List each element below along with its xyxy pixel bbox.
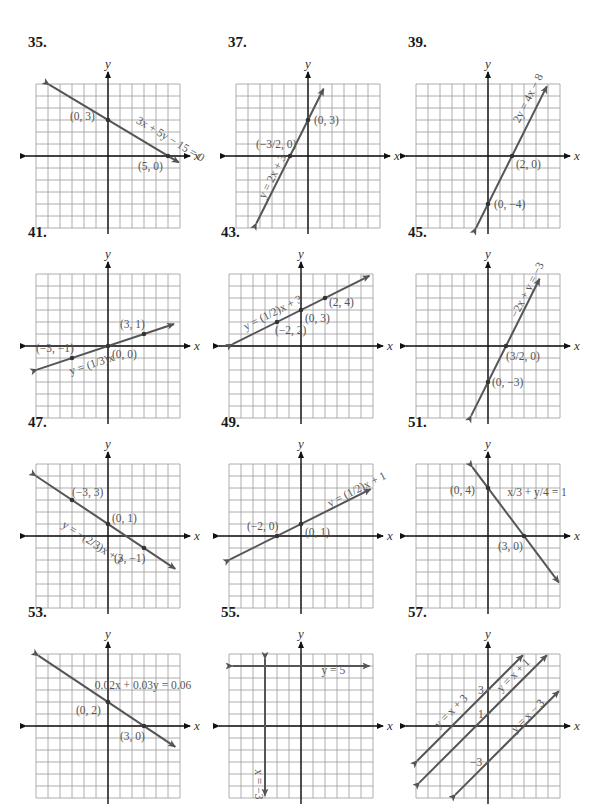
- equation-label: x/3 + y/4 = 1: [507, 486, 567, 499]
- coordinate-plane: xyy = (1/2)x + 3(2, 4)(0, 3)(−2, 2): [215, 250, 389, 434]
- point-label: (3, 1): [120, 318, 145, 331]
- point-label: (3, 0): [120, 730, 145, 743]
- point-label: (3, 0): [498, 540, 523, 553]
- y-axis-label: y: [103, 436, 111, 451]
- plotted-point: [106, 700, 111, 705]
- plotted-point: [486, 486, 491, 491]
- coordinate-plane: xyy = 2x + 3(0, 3)(−3/2, 0): [222, 60, 396, 244]
- x-axis-label: x: [193, 338, 200, 353]
- equation-label: y = (1/2)x + 1: [325, 469, 388, 510]
- plotted-point: [504, 344, 509, 349]
- point-label: (3/2, 0): [506, 350, 540, 363]
- y-axis-label: y: [296, 626, 304, 641]
- problem-number: 55.: [221, 604, 240, 621]
- plotted-point: [142, 724, 147, 729]
- point-label: (0, 1): [112, 512, 137, 525]
- y-axis-label: y: [483, 56, 491, 71]
- point-label: (0, −4): [494, 198, 526, 211]
- point-label: (−2, 2): [275, 324, 307, 337]
- x-axis-label: x: [573, 148, 580, 163]
- y-axis-label: y: [483, 246, 491, 261]
- coordinate-plane: xy2y = 4x − 8(2, 0)(0, −4): [402, 60, 576, 244]
- graph-line: [417, 655, 523, 761]
- problem-number: 51.: [408, 414, 427, 431]
- graph-panel-43: 43.xyy = (1/2)x + 3(2, 4)(0, 3)(−2, 2): [229, 224, 419, 409]
- graph-panel-49: 49.xyy = (1/2)x + 1(−2, 0)(0, 1): [229, 414, 419, 599]
- intercept-label: −3: [470, 756, 482, 768]
- x-axis-label: x: [193, 528, 200, 543]
- point-label: (5, 0): [138, 160, 163, 173]
- problem-number: 47.: [28, 414, 47, 431]
- point-label: (0, 1): [305, 526, 330, 539]
- plotted-point: [70, 498, 75, 503]
- graph-panel-55: 55.xyy = 5x = −3: [229, 604, 419, 789]
- graph-panel-57: 57.xyy = x + 3y = x + 1y = x − 331−3: [416, 604, 606, 789]
- coordinate-plane: xyx/3 + y/4 = 1(0, 4)(3, 0): [402, 440, 576, 624]
- point-label: (2, 4): [329, 296, 354, 309]
- y-axis-label: y: [103, 246, 111, 261]
- point-label: (0, 3): [70, 110, 95, 123]
- graph-panel-41: 41.xyy = (1/3)x(3, 1)(−3, −1)(0, 0): [36, 224, 226, 409]
- plotted-point: [166, 154, 171, 159]
- intercept-label: 3: [478, 684, 484, 696]
- coordinate-plane: xyy = (1/2)x + 1(−2, 0)(0, 1): [215, 440, 389, 624]
- equation-label: y = 5: [321, 664, 345, 677]
- plotted-point: [299, 522, 304, 527]
- problem-number: 45.: [408, 224, 427, 241]
- equation-label: y = x + 3: [432, 692, 471, 731]
- y-axis-label: y: [296, 436, 304, 451]
- plotted-point: [323, 296, 328, 301]
- x-axis-label: x: [393, 148, 400, 163]
- plotted-point: [522, 534, 527, 539]
- plotted-point: [106, 522, 111, 527]
- equation-label: 0.02x + 0.03y = 0.06: [95, 679, 192, 692]
- problem-number: 41.: [28, 224, 47, 241]
- plotted-point: [142, 546, 147, 551]
- plotted-point: [70, 356, 75, 361]
- coordinate-plane: xy3x + 5y − 15 = 0(0, 3)(5, 0): [22, 60, 196, 244]
- point-label: (3, −1): [114, 552, 146, 565]
- plotted-point: [106, 344, 111, 349]
- y-axis-label: y: [483, 626, 491, 641]
- point-label: (0, 3): [314, 114, 339, 127]
- plotted-point: [275, 534, 280, 539]
- x-axis-label: x: [386, 528, 393, 543]
- plotted-point: [306, 118, 311, 123]
- point-label: (−3/2, 0): [256, 138, 297, 151]
- point-label: (2, 0): [516, 158, 541, 171]
- problem-number: 37.: [228, 34, 247, 51]
- intercept-label: 1: [478, 708, 484, 720]
- problem-number: 43.: [221, 224, 240, 241]
- equation-label: x = −3: [253, 769, 265, 799]
- point-label: (0, 2): [76, 704, 101, 717]
- point-label: (−3, 3): [72, 486, 104, 499]
- coordinate-plane: xyy = 5x = −3: [215, 630, 389, 808]
- equation-label: −2x + y = −3: [508, 260, 547, 320]
- graph-panel-47: 47.xyy = −(2/3)x + 1(−3, 3)(0, 1)(3, −1): [36, 414, 226, 599]
- graph-line: [472, 467, 558, 582]
- x-axis-label: x: [573, 718, 580, 733]
- x-axis-label: x: [386, 338, 393, 353]
- point-label: (0, 0): [112, 348, 137, 361]
- plotted-point: [486, 202, 491, 207]
- problem-number: 49.: [221, 414, 240, 431]
- y-axis-label: y: [303, 56, 311, 71]
- point-label: (−2, 0): [247, 520, 279, 533]
- problem-number: 57.: [408, 604, 427, 621]
- point-label: (0, −3): [492, 376, 524, 389]
- graph-panel-53: 53.xy0.02x + 0.03y = 0.06(0, 2)(3, 0): [36, 604, 226, 789]
- y-axis-label: y: [296, 246, 304, 261]
- coordinate-plane: xyy = (1/3)x(3, 1)(−3, −1)(0, 0): [22, 250, 196, 434]
- graph-panel-51: 51.xyx/3 + y/4 = 1(0, 4)(3, 0): [416, 414, 606, 599]
- plotted-point: [299, 308, 304, 313]
- graph-panel-39: 39.xy2y = 4x − 8(2, 0)(0, −4): [416, 34, 606, 219]
- x-axis-label: x: [573, 338, 580, 353]
- plotted-point: [486, 380, 491, 385]
- y-axis-label: y: [103, 56, 111, 71]
- plotted-point: [510, 154, 515, 159]
- problem-number: 35.: [28, 34, 47, 51]
- y-axis-label: y: [103, 626, 111, 641]
- point-label: (−3, −1): [36, 342, 74, 355]
- problem-number: 39.: [408, 34, 427, 51]
- coordinate-plane: xy−2x + y = −3(3/2, 0)(0, −3): [402, 250, 576, 434]
